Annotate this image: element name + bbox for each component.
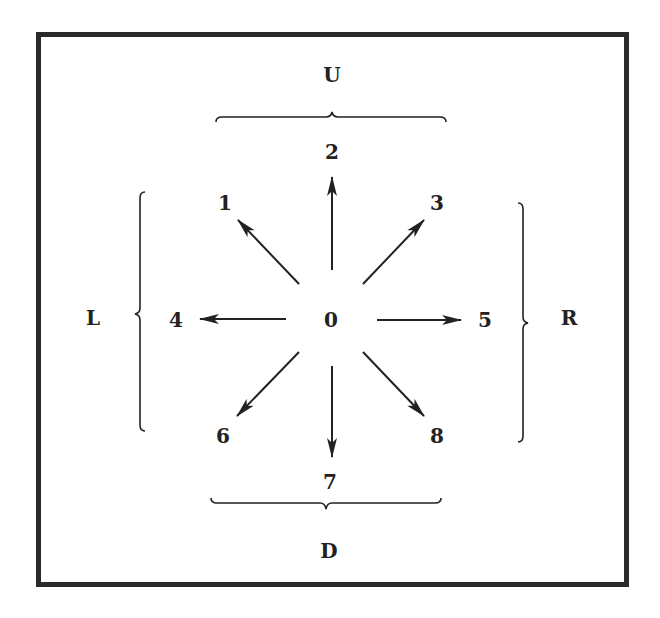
brace-left <box>135 192 145 431</box>
brace-right <box>518 203 528 442</box>
group-label-down: D <box>320 541 337 561</box>
direction-label-6: 6 <box>216 426 230 446</box>
direction-label-1: 1 <box>218 193 232 213</box>
direction-label-3: 3 <box>430 193 444 213</box>
group-label-right: R <box>561 308 578 328</box>
group-label-up: U <box>323 65 340 85</box>
center-label: 0 <box>324 310 338 330</box>
direction-diagram: U D L R 0 1 2 3 4 5 6 7 8 <box>0 0 660 618</box>
arrow-3-up-right <box>363 220 424 284</box>
direction-label-7: 7 <box>323 472 337 492</box>
arrow-6-down-left <box>237 352 299 416</box>
group-label-left: L <box>86 308 100 328</box>
arrow-8-down-right <box>363 352 424 416</box>
arrow-1-up-left <box>238 220 299 284</box>
direction-label-5: 5 <box>478 310 492 330</box>
brace-down <box>211 498 441 509</box>
direction-label-8: 8 <box>430 426 444 446</box>
direction-label-2: 2 <box>325 142 339 162</box>
direction-label-4: 4 <box>169 310 183 330</box>
brace-up <box>216 112 446 122</box>
